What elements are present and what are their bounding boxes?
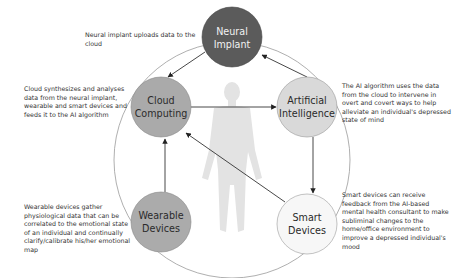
node-wearable-devices: Wearable Devices xyxy=(131,192,191,252)
desc-smart-devices: Smart devices can receive feedback from … xyxy=(342,191,450,251)
node-ai-line1: Artificial xyxy=(287,95,326,106)
node-neural-implant-line2: Implant xyxy=(214,39,251,50)
human-body-silhouette-icon xyxy=(202,82,262,232)
node-smart-devices: Smart Devices xyxy=(277,194,337,254)
edge-ai-to-neural xyxy=(262,55,307,77)
node-smart-line2: Devices xyxy=(288,225,326,236)
node-neural-implant-line1: Neural xyxy=(216,26,248,37)
desc-wearable-devices: Wearable devices gather physiological da… xyxy=(24,203,132,255)
desc-cloud-computing: Cloud synthesizes and analyses data from… xyxy=(24,85,130,119)
node-wearable-line2: Devices xyxy=(142,223,180,234)
desc-neural-implant: Neural implant uploads data to the cloud xyxy=(85,31,207,48)
edge-neural-to-cloud xyxy=(168,52,205,77)
desc-artificial-intelligence: The AI algorithm uses the data from the … xyxy=(342,82,454,125)
node-artificial-intelligence: Artificial Intelligence xyxy=(277,77,337,137)
node-wearable-line1: Wearable xyxy=(138,210,183,221)
node-cloud-computing-line1: Cloud xyxy=(147,95,174,106)
node-smart-line1: Smart xyxy=(292,212,321,223)
node-neural-implant: Neural Implant xyxy=(202,7,262,67)
node-ai-line2: Intelligence xyxy=(279,108,335,119)
node-cloud-computing: Cloud Computing xyxy=(131,77,191,137)
node-cloud-computing-line2: Computing xyxy=(135,108,188,119)
